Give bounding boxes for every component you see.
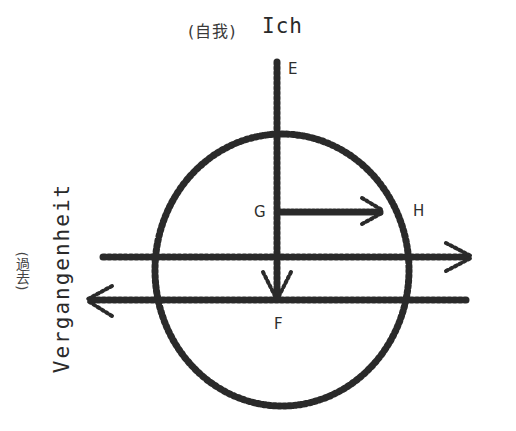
vertical-axis-e-f: [263, 62, 291, 298]
point-label-f: F: [274, 315, 283, 333]
point-label-e: E: [288, 60, 297, 78]
arrow-g-to-h: [279, 198, 382, 224]
hatched-circle: [155, 134, 409, 406]
point-label-h: H: [413, 202, 424, 220]
title-cjk-label: (自我): [188, 18, 236, 42]
diagram-canvas: (自我) Ich E G H F (過去) Vergangenheit: [0, 0, 516, 431]
title-german-label: Ich: [262, 14, 303, 38]
point-label-g: G: [254, 203, 266, 221]
